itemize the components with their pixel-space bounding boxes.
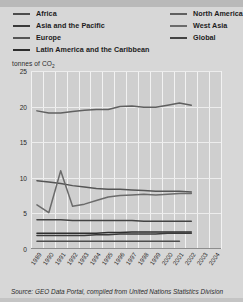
y-axis-tick-label: 20 xyxy=(20,103,27,110)
legend-item[interactable]: Global xyxy=(170,32,243,43)
x-axis-tick-label: 2002 xyxy=(183,251,197,266)
legend-item[interactable]: North America xyxy=(170,8,243,19)
x-axis-tick-label: 1996 xyxy=(112,251,126,266)
x-axis-tick-label: 1990 xyxy=(41,251,55,266)
top-divider xyxy=(0,0,243,7)
legend-column-left: AfricaAsia and the PacificEuropeLatin Am… xyxy=(13,8,150,56)
x-axis-tick-label: 1994 xyxy=(88,251,102,266)
y-axis-tick-label: 0 xyxy=(23,246,27,253)
x-axis-tick-label: 1991 xyxy=(53,251,67,266)
legend-item[interactable]: Europe xyxy=(13,32,150,43)
legend-column-right: North AmericaWest AsiaGlobal xyxy=(170,8,243,44)
x-axis-tick-label: 2000 xyxy=(160,251,174,266)
y-axis-title-subscript: 2 xyxy=(52,64,55,69)
legend-item[interactable]: Latin America and the Caribbean xyxy=(13,44,150,55)
legend-item-label: Global xyxy=(193,33,216,42)
legend-swatch-icon xyxy=(13,25,30,27)
legend-item-label: Latin America and the Caribbean xyxy=(36,45,150,54)
legend-item-label: North America xyxy=(193,9,243,18)
chart-figure: AfricaAsia and the PacificEuropeLatin Am… xyxy=(0,0,243,302)
chart-legend: AfricaAsia and the PacificEuropeLatin Am… xyxy=(0,8,243,55)
legend-swatch-icon xyxy=(13,37,30,39)
series-line xyxy=(37,103,191,113)
plot-area: 0510152025 19891990199119921993199419951… xyxy=(31,71,221,249)
x-axis-tick-label: 2001 xyxy=(172,251,186,266)
legend-swatch-icon xyxy=(13,49,30,51)
legend-item[interactable]: Asia and the Pacific xyxy=(13,20,150,31)
legend-swatch-icon xyxy=(170,37,187,39)
y-axis-tick-label: 5 xyxy=(23,210,27,217)
bottom-divider xyxy=(0,298,243,302)
legend-item[interactable]: West Asia xyxy=(170,20,243,31)
legend-item-label: Africa xyxy=(36,9,57,18)
x-axis-tick-label: 1999 xyxy=(148,251,162,266)
series-lines xyxy=(31,71,221,249)
legend-item[interactable]: Africa xyxy=(13,8,150,19)
x-axis-tick-label: 1997 xyxy=(124,251,138,266)
legend-swatch-icon xyxy=(170,25,187,27)
y-axis-tick-label: 10 xyxy=(20,174,27,181)
x-axis-tick-label: 1992 xyxy=(65,251,79,266)
x-axis-tick-label: 1993 xyxy=(77,251,91,266)
y-axis-title: tonnes of CO2 xyxy=(12,60,55,69)
legend-swatch-icon xyxy=(170,13,187,15)
x-axis-tick-label: 1998 xyxy=(136,251,150,266)
x-axis-tick-label: 1995 xyxy=(100,251,114,266)
series-line xyxy=(37,220,191,221)
y-axis-tick-label: 15 xyxy=(20,139,27,146)
legend-item-label: West Asia xyxy=(193,21,227,30)
y-axis-tick-label: 25 xyxy=(20,68,27,75)
x-axis-tick-label: 2004 xyxy=(207,251,221,266)
legend-item-label: Asia and the Pacific xyxy=(36,21,105,30)
legend-swatch-icon xyxy=(13,13,30,15)
y-axis-title-text: tonnes of CO xyxy=(12,60,52,67)
x-axis-tick-label: 1989 xyxy=(29,251,43,266)
source-note: Source: GEO Data Portal, compiled from U… xyxy=(11,288,223,295)
x-axis-line xyxy=(31,248,221,249)
gridline-vertical xyxy=(221,71,222,249)
legend-item-label: Europe xyxy=(36,33,61,42)
series-line xyxy=(37,181,191,192)
x-axis-tick-label: 2003 xyxy=(195,251,209,266)
